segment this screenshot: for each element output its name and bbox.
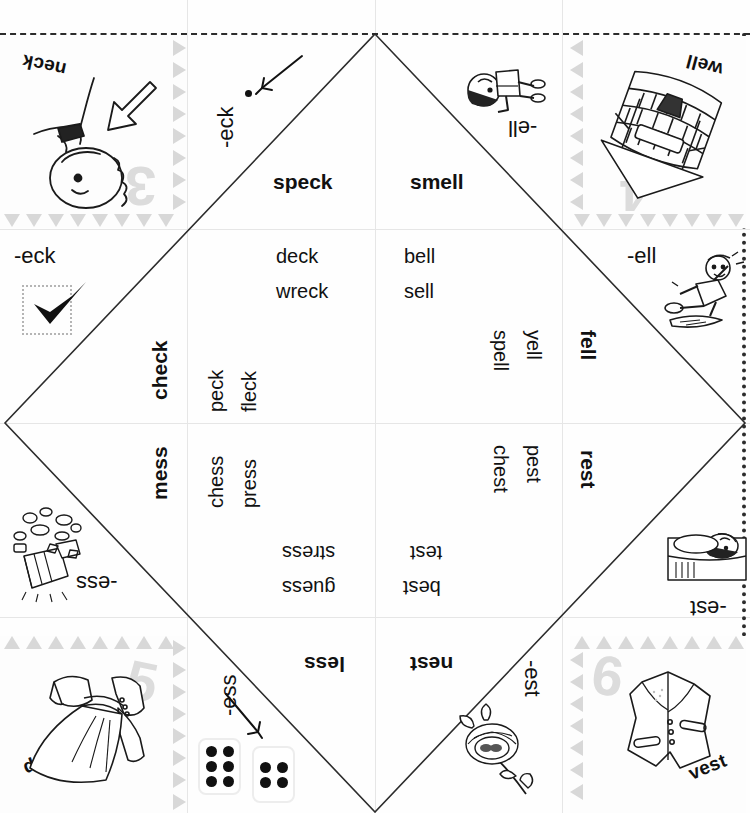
art-nest-icon	[450, 700, 542, 800]
art-stone-well-icon	[584, 62, 736, 212]
grid-line-h2	[0, 423, 750, 424]
corner-card-neck[interactable]: neck 3	[0, 36, 187, 228]
inner-word-pest: pest	[522, 445, 545, 483]
die-four[interactable]	[252, 746, 295, 803]
art-boy-fell-icon	[660, 250, 748, 334]
die-pip	[223, 761, 234, 772]
triangle-edge-left-vest	[570, 636, 584, 813]
triangle-edge-bottom-well	[570, 214, 746, 228]
inner-word-yell: yell	[522, 330, 545, 360]
inner-word-test: test	[410, 541, 442, 564]
inner-word-guess: guess	[282, 576, 335, 599]
triangle-edge-top-dress	[0, 636, 187, 650]
die-pip	[223, 776, 234, 787]
flap-rime-ell-top: -ell	[508, 115, 537, 141]
inner-word-press: press	[238, 459, 261, 508]
art-rest-sleeping-icon	[662, 516, 750, 586]
inner-word-bell: bell	[404, 245, 435, 268]
headword-check: check	[148, 340, 172, 400]
corner-card-well[interactable]: well 4	[570, 36, 746, 228]
flap-rime-est-right: -est	[690, 595, 727, 621]
triangle-edge-right-dress	[173, 636, 187, 813]
inner-word-fleck: fleck	[238, 371, 261, 412]
headword-rest: rest	[576, 450, 600, 489]
art-girl-neck-icon	[18, 66, 173, 216]
headword-fell: fell	[576, 330, 600, 360]
corner-card-dress[interactable]: dress 5	[0, 636, 187, 813]
grid-line-v1	[187, 0, 188, 813]
inner-word-sell: sell	[404, 280, 434, 303]
flap-rime-est-bottom: -est	[519, 660, 545, 697]
inner-word-best: best	[403, 576, 441, 599]
triangle-edge-bottom-neck	[0, 214, 187, 228]
triangle-edge-right-neck	[173, 36, 187, 228]
inner-word-peck: peck	[205, 370, 228, 412]
flap-rime-eck-top: -eck	[213, 106, 239, 148]
die-pip	[260, 777, 271, 788]
inner-word-chess: chess	[205, 456, 228, 508]
headword-nest: nest	[410, 652, 453, 676]
die-pip	[206, 776, 217, 787]
inner-word-deck: deck	[276, 245, 318, 268]
corner-card-vest[interactable]: vest 6	[570, 636, 746, 813]
die-pip	[206, 761, 217, 772]
triangle-edge-left-well	[570, 36, 584, 228]
inner-word-stress: stress	[282, 541, 335, 564]
art-mess-trash-icon	[6, 500, 106, 596]
art-dress-icon	[20, 664, 170, 796]
die-pip	[277, 762, 288, 773]
grid-line-v2	[375, 0, 376, 813]
arrow-to-dice-icon	[222, 690, 280, 742]
headword-less: less	[304, 652, 345, 676]
worksheet-sheet: neck 3	[0, 0, 750, 813]
die-pip	[277, 777, 288, 788]
die-pip	[206, 746, 217, 757]
arrow-to-dot-icon	[250, 52, 310, 102]
art-vest-icon	[598, 666, 738, 796]
flap-rime-eck-left: -eck	[14, 243, 56, 269]
grid-line-h3	[0, 617, 750, 618]
headword-smell: smell	[410, 170, 464, 194]
headword-speck: speck	[273, 170, 333, 194]
die-six[interactable]	[198, 738, 241, 795]
check-mark-icon	[24, 276, 96, 338]
grid-line-h1	[0, 229, 750, 230]
die-pip	[260, 762, 271, 773]
die-pip	[223, 746, 234, 757]
inner-word-spell: spell	[489, 330, 512, 371]
inner-word-chest: chest	[489, 445, 512, 493]
flap-rime-ell-right: -ell	[627, 243, 656, 269]
art-boy-smell-icon	[440, 44, 550, 116]
headword-mess: mess	[148, 446, 172, 500]
grid-line-v3	[562, 0, 563, 813]
inner-word-wreck: wreck	[276, 280, 328, 303]
